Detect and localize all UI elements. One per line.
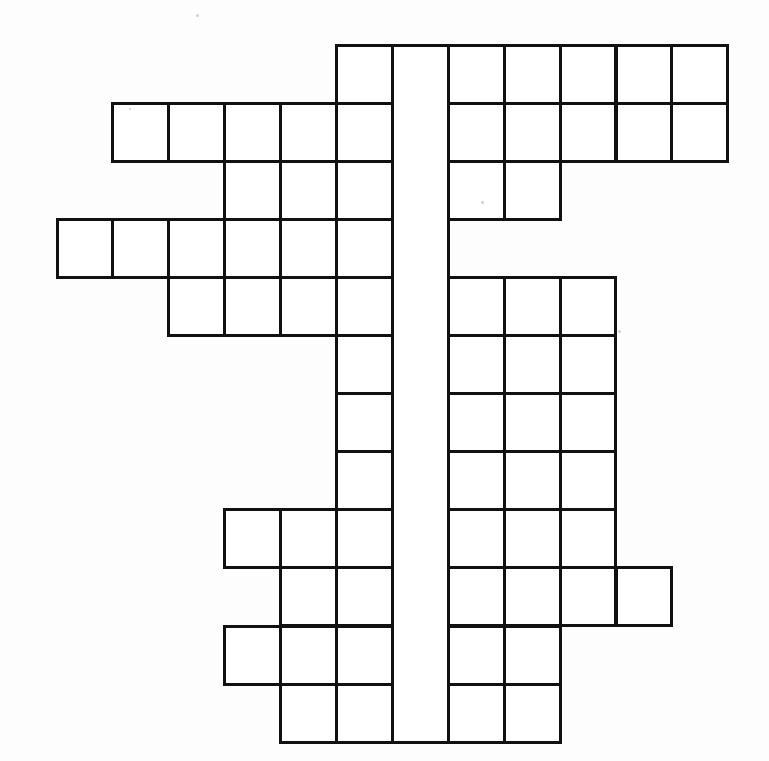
crossword-cell[interactable] — [223, 508, 282, 569]
crossword-grid[interactable] — [0, 0, 769, 761]
crossword-cell[interactable] — [111, 218, 170, 279]
crossword-cell[interactable] — [223, 160, 282, 221]
crossword-cell[interactable] — [279, 508, 338, 569]
crossword-cell[interactable] — [335, 508, 394, 569]
crossword-cell[interactable] — [335, 276, 394, 337]
crossword-cell[interactable] — [335, 44, 394, 105]
crossword-cell[interactable] — [447, 566, 506, 627]
paper-speck — [481, 201, 484, 204]
crossword-cell[interactable] — [279, 683, 338, 744]
crossword-cell[interactable] — [559, 276, 618, 337]
crossword-cell[interactable] — [447, 625, 506, 686]
crossword-cell[interactable] — [167, 218, 226, 279]
crossword-cell[interactable] — [167, 102, 226, 163]
crossword-cell[interactable] — [559, 392, 618, 453]
crossword-cell[interactable] — [447, 334, 506, 395]
crossword-puzzle-page — [0, 0, 769, 761]
crossword-cell[interactable] — [335, 450, 394, 511]
crossword-cell[interactable] — [503, 160, 562, 221]
crossword-cell[interactable] — [559, 508, 618, 569]
crossword-cell[interactable] — [335, 218, 394, 279]
crossword-cell[interactable] — [447, 508, 506, 569]
crossword-cell[interactable] — [111, 102, 170, 163]
crossword-spine-column[interactable] — [391, 44, 450, 744]
crossword-cell[interactable] — [335, 566, 394, 627]
crossword-cell[interactable] — [447, 102, 506, 163]
crossword-cell[interactable] — [670, 44, 729, 105]
crossword-cell[interactable] — [335, 334, 394, 395]
crossword-cell[interactable] — [447, 683, 506, 744]
crossword-cell[interactable] — [503, 508, 562, 569]
crossword-cell[interactable] — [503, 102, 562, 163]
crossword-cell[interactable] — [279, 218, 338, 279]
crossword-cell[interactable] — [559, 566, 618, 627]
crossword-cell[interactable] — [559, 450, 618, 511]
crossword-cell[interactable] — [615, 102, 674, 163]
crossword-cell[interactable] — [223, 218, 282, 279]
crossword-cell[interactable] — [503, 625, 562, 686]
crossword-cell[interactable] — [335, 625, 394, 686]
crossword-cell[interactable] — [335, 160, 394, 221]
crossword-cell[interactable] — [670, 102, 729, 163]
crossword-cell[interactable] — [447, 276, 506, 337]
crossword-cell[interactable] — [335, 102, 394, 163]
paper-speck — [129, 108, 131, 110]
crossword-cell[interactable] — [615, 44, 674, 105]
crossword-cell[interactable] — [223, 625, 282, 686]
paper-speck — [196, 14, 199, 17]
crossword-cell[interactable] — [447, 160, 506, 221]
crossword-cell[interactable] — [503, 450, 562, 511]
crossword-cell[interactable] — [56, 218, 115, 279]
crossword-cell[interactable] — [335, 683, 394, 744]
crossword-cell[interactable] — [559, 102, 618, 163]
crossword-cell[interactable] — [503, 334, 562, 395]
crossword-cell[interactable] — [503, 392, 562, 453]
crossword-cell[interactable] — [503, 683, 562, 744]
crossword-cell[interactable] — [615, 566, 674, 627]
crossword-cell[interactable] — [447, 44, 506, 105]
crossword-cell[interactable] — [279, 160, 338, 221]
crossword-cell[interactable] — [447, 392, 506, 453]
crossword-cell[interactable] — [223, 276, 282, 337]
crossword-cell[interactable] — [503, 276, 562, 337]
crossword-cell[interactable] — [559, 44, 618, 105]
crossword-cell[interactable] — [279, 625, 338, 686]
paper-speck — [618, 330, 621, 333]
crossword-cell[interactable] — [279, 102, 338, 163]
crossword-cell[interactable] — [447, 450, 506, 511]
crossword-cell[interactable] — [279, 566, 338, 627]
crossword-cell[interactable] — [503, 44, 562, 105]
crossword-cell[interactable] — [279, 276, 338, 337]
crossword-cell[interactable] — [167, 276, 226, 337]
crossword-cell[interactable] — [335, 392, 394, 453]
crossword-cell[interactable] — [503, 566, 562, 627]
crossword-cell[interactable] — [223, 102, 282, 163]
crossword-cell[interactable] — [559, 334, 618, 395]
